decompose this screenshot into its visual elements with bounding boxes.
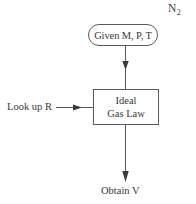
arrowhead-process-to-result bbox=[122, 171, 128, 182]
connector-start-to-process bbox=[122, 46, 128, 89]
process-node-label-line2: Gas Law bbox=[107, 107, 145, 120]
lookup-constant-label: Look up R bbox=[7, 100, 52, 114]
arrowhead-start-to-process bbox=[122, 61, 128, 70]
species-subscript: 2 bbox=[177, 8, 181, 17]
process-node-label-line1: Ideal bbox=[116, 94, 137, 107]
obtain-result-label: Obtain V bbox=[101, 184, 140, 198]
flowchart-node-process: Ideal Gas Law bbox=[93, 89, 159, 125]
species-symbol: N bbox=[168, 2, 176, 14]
flowchart-canvas: N2 Given M, P, T Ideal Gas Law Look up R… bbox=[0, 0, 196, 204]
arrowhead-lookup-to-process bbox=[73, 104, 82, 110]
connector-lookup-to-process bbox=[56, 104, 93, 110]
gas-species-label: N2 bbox=[168, 1, 181, 17]
flowchart-node-start: Given M, P, T bbox=[88, 24, 158, 46]
start-node-label: Given M, P, T bbox=[94, 30, 152, 41]
connector-process-to-result bbox=[122, 125, 128, 182]
